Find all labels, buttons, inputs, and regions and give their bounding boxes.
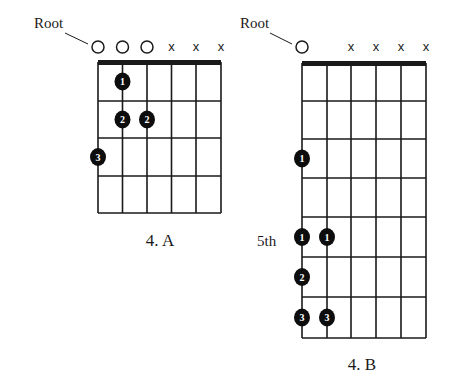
finger-dot: 1 [115,73,131,91]
finger-dot: 1 [294,150,310,168]
finger-dot: 2 [115,111,131,129]
root-pointer-line [270,33,292,44]
muted-string-x-icon: x [193,39,200,54]
muted-string-x-icon: x [423,39,430,54]
muted-string-x-icon: x [218,39,225,54]
finger-dot: 1 [294,228,310,246]
root-label: Root [34,15,64,31]
finger-number: 3 [325,312,330,323]
root-label: Root [240,15,270,31]
finger-dot: 3 [90,148,106,166]
finger-dot: 2 [139,111,155,129]
chord-diagrams-figure: Rootxxx12234. A Rootxxxx5th1112334. B [0,0,455,388]
finger-number: 2 [120,114,125,125]
finger-number: 2 [300,272,305,283]
chord-diagram-4a: Rootxxx12234. A [34,15,225,250]
muted-string-x-icon: x [348,39,355,54]
finger-number: 1 [300,153,305,164]
finger-dot: 3 [294,309,310,327]
open-string-circle-icon [117,41,129,53]
muted-string-x-icon: x [373,39,380,54]
finger-number: 1 [300,232,305,243]
finger-number: 1 [325,232,330,243]
nut-bar [302,61,426,66]
diagram-caption: 4. A [146,231,175,250]
diagram-caption: 4. B [348,355,376,374]
finger-number: 1 [120,76,125,87]
open-string-circle-icon [296,41,308,53]
nut-bar [98,60,221,65]
finger-number: 3 [96,152,101,163]
open-string-circle-icon [92,41,104,53]
finger-dot: 2 [294,268,310,286]
finger-number: 2 [145,114,150,125]
finger-dot: 3 [319,309,335,327]
muted-string-x-icon: x [168,39,175,54]
muted-string-x-icon: x [398,39,405,54]
open-string-circle-icon [141,41,153,53]
finger-dot: 1 [319,228,335,246]
root-pointer-line [65,33,88,44]
chord-diagram-4b: Rootxxxx5th1112334. B [240,15,430,374]
fret-position-label: 5th [257,233,277,249]
finger-number: 3 [300,312,305,323]
